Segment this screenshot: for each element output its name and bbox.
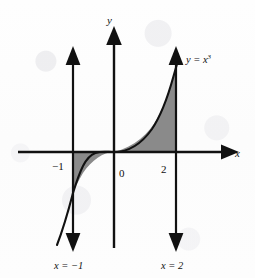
math-figure: x y −1 0 2 y= x3 x = −1 x = 2 — [0, 0, 255, 278]
label-line-x-neg-1: x = −1 — [53, 260, 83, 271]
origin-label: 0 — [119, 167, 125, 179]
cubic-function-plot: x y −1 0 2 y= x3 x = −1 x = 2 — [0, 0, 255, 278]
curve-label-exponent: 3 — [207, 53, 212, 61]
y-axis-label: y — [106, 14, 112, 26]
y-axis — [106, 26, 122, 248]
vertical-line-x-neg-1 — [66, 46, 81, 252]
tick-label-neg-1: −1 — [52, 160, 64, 172]
svg-text:y= x3: y= x3 — [185, 53, 212, 65]
curve-equation-label: y= x3 — [185, 53, 212, 65]
label-line-x-2: x = 2 — [160, 260, 184, 271]
curve-label-y: y — [185, 54, 191, 65]
x-axis-label: x — [234, 147, 240, 159]
curve-label-eq: = x — [193, 54, 208, 65]
tick-label-2: 2 — [161, 163, 167, 175]
shaded-area-right — [114, 67, 176, 152]
